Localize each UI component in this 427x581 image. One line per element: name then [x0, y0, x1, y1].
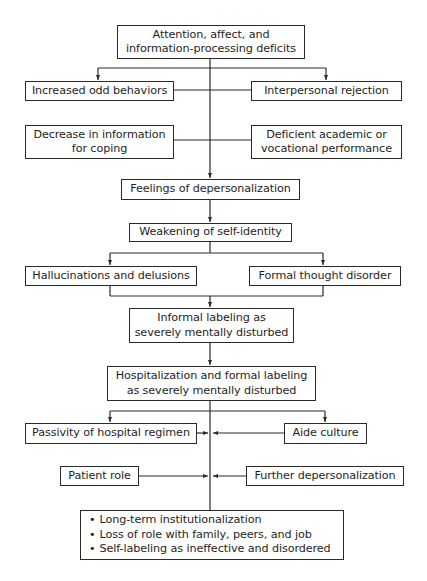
node-text-line: Decrease in information: [33, 128, 165, 143]
node-weakening-self-identity: Weakening of self-identity: [129, 223, 292, 242]
node-interpersonal-rejection: Interpersonal rejection: [251, 81, 402, 101]
node-formal-thought-disorder: Formal thought disorder: [249, 266, 401, 286]
node-text-line: Increased odd behaviors: [32, 84, 167, 99]
node-text-line: Passivity of hospital regimen: [32, 426, 190, 441]
node-text-line: Attention, affect, and: [153, 28, 270, 43]
node-outcomes-list: Long-term institutionalization Loss of r…: [80, 510, 344, 560]
flowchart-canvas: Attention, affect, and information-proce…: [0, 0, 427, 581]
node-hallucinations-delusions: Hallucinations and delusions: [25, 266, 197, 286]
outcome-list-item: Loss of role with family, peers, and job: [89, 528, 312, 543]
outcome-list-item: Long-term institutionalization: [89, 513, 261, 528]
node-text-line: Deficient academic or: [266, 128, 387, 143]
node-text-line: Hospitalization and formal labeling: [116, 369, 308, 384]
node-feelings-depersonalization: Feelings of depersonalization: [121, 179, 300, 200]
node-text-line: vocational performance: [261, 142, 392, 157]
node-text-line: Formal thought disorder: [259, 269, 392, 284]
node-aide-culture: Aide culture: [284, 423, 367, 444]
node-increased-odd-behaviors: Increased odd behaviors: [25, 81, 174, 101]
node-text-line: as severely mentally disturbed: [127, 384, 297, 399]
node-hospitalization-formal-labeling: Hospitalization and formal labeling as s…: [107, 366, 316, 401]
node-text-line: Further depersonalization: [254, 469, 395, 484]
node-passivity-hospital-regimen: Passivity of hospital regimen: [25, 423, 197, 444]
node-decrease-information-coping: Decrease in information for coping: [25, 125, 174, 159]
node-text-line: information-processing deficits: [126, 42, 296, 57]
node-informal-labeling: Informal labeling as severely mentally d…: [129, 308, 294, 343]
node-text-line: severely mentally disturbed: [135, 326, 289, 341]
node-patient-role: Patient role: [60, 466, 139, 486]
node-text-line: Hallucinations and delusions: [32, 269, 189, 284]
node-text-line: Interpersonal rejection: [264, 84, 389, 99]
node-text-line: Weakening of self-identity: [139, 225, 282, 240]
node-text-line: Feelings of depersonalization: [130, 182, 290, 197]
node-text-line: for coping: [72, 142, 127, 157]
node-text-line: Informal labeling as: [157, 311, 266, 326]
node-text-line: Aide culture: [292, 426, 358, 441]
node-attention-deficits: Attention, affect, and information-proce…: [117, 25, 305, 59]
outcome-list-item: Self-labeling as ineffective and disorde…: [89, 542, 331, 557]
node-text-line: Patient role: [68, 469, 131, 484]
node-deficient-performance: Deficient academic or vocational perform…: [251, 125, 402, 159]
node-further-depersonalization: Further depersonalization: [246, 466, 404, 486]
